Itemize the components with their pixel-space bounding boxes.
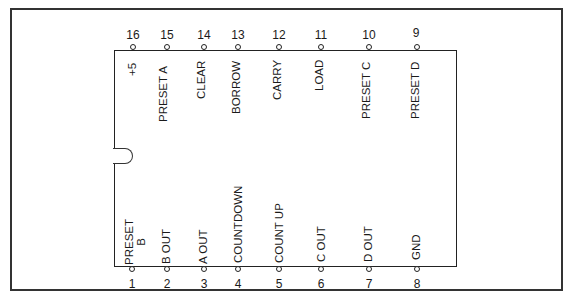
- pin-label: CLEAR: [195, 61, 207, 99]
- pin-number: 1: [120, 278, 144, 290]
- pin-label: B OUT: [160, 229, 172, 264]
- pin-circle-icon: [318, 44, 324, 50]
- pin-number: 2: [155, 278, 179, 290]
- pin-number: 16: [121, 29, 145, 41]
- pin-number: 12: [267, 29, 291, 41]
- pin1-notch: [113, 148, 133, 164]
- pin-label: PRESET D: [409, 62, 421, 119]
- pin-circle-icon: [201, 44, 207, 50]
- pin-circle-icon: [366, 44, 372, 50]
- pin-label: PRESET C: [360, 62, 372, 119]
- pin-circle-icon: [366, 266, 372, 272]
- pin-label: A OUT: [197, 229, 209, 264]
- pin-circle-icon: [414, 44, 420, 50]
- pin-label: BORROW: [230, 61, 242, 114]
- pin-number: 9: [404, 27, 428, 39]
- pin-number: 4: [226, 278, 250, 290]
- pin-label: PRESET A: [157, 66, 169, 122]
- pin-label-line1: PRESET: [123, 219, 135, 265]
- pin-circle-icon: [201, 266, 207, 272]
- pin-label: GND: [410, 234, 422, 260]
- pin-label: CARRY: [271, 60, 283, 100]
- pin-number: 8: [405, 278, 429, 290]
- pin-circle-icon: [129, 266, 135, 272]
- pin-label: LOAD: [313, 60, 325, 91]
- pin-circle-icon: [164, 266, 170, 272]
- pin-number: 11: [309, 29, 333, 41]
- pin-label: PRESET B: [123, 219, 147, 265]
- pin-label: +5: [126, 63, 138, 76]
- pin-number: 3: [192, 278, 216, 290]
- pin-label: COUNTDOWN: [232, 186, 244, 263]
- pin-label: COUNT UP: [273, 203, 285, 263]
- pin-circle-icon: [164, 44, 170, 50]
- pin-circle-icon: [130, 44, 136, 50]
- pin-number: 6: [309, 278, 333, 290]
- pin-number: 7: [357, 278, 381, 290]
- pin-circle-icon: [235, 44, 241, 50]
- pin-number: 10: [357, 29, 381, 41]
- pin-number: 15: [155, 29, 179, 41]
- pin-circle-icon: [318, 266, 324, 272]
- pin-circle-icon: [235, 266, 241, 272]
- pin-circle-icon: [414, 266, 420, 272]
- pin-label: C OUT: [315, 226, 327, 262]
- pin-circle-icon: [276, 44, 282, 50]
- pin-label: D OUT: [362, 226, 374, 262]
- pin-number: 5: [267, 278, 291, 290]
- pin-label-line2: B: [135, 219, 147, 265]
- pin-number: 13: [226, 29, 250, 41]
- pin-number: 14: [192, 29, 216, 41]
- pin-circle-icon: [276, 266, 282, 272]
